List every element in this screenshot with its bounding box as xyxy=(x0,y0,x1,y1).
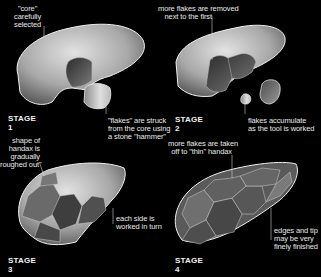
label-thin: more flakes are taken off to "thin" hand… xyxy=(168,140,232,156)
stage-1-title: STAGE 1 xyxy=(8,114,36,132)
stage-3-title: STAGE 3 xyxy=(8,256,36,274)
stage2-core xyxy=(176,16,285,114)
stage1-core xyxy=(17,24,144,114)
label-more-flakes: more flakes are removed next to the firs… xyxy=(158,5,212,21)
stage-4-title: STAGE 4 xyxy=(175,256,203,274)
label-edges: edges and tip may be very finely finishe… xyxy=(274,227,318,251)
label-each-side: each side is worked in turn xyxy=(116,215,162,231)
label-core: "core" carefully selected xyxy=(14,5,41,29)
label-flakes: "flakes" are struck from the core using … xyxy=(108,117,170,141)
label-roughed: shape of handax is gradually roughed out… xyxy=(0,137,40,169)
stage-2-title: STAGE 2 xyxy=(175,115,203,133)
stage3-handax xyxy=(19,163,126,245)
label-accumulate: flakes accumulate as the tool is worked xyxy=(248,117,314,133)
